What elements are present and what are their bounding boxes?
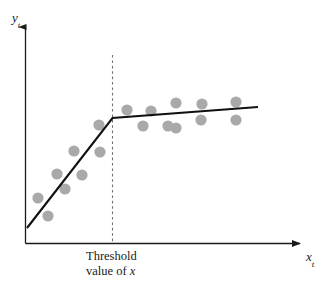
- threshold-caption: Threshold value of x: [86, 249, 196, 280]
- data-point: [170, 97, 181, 108]
- data-point: [230, 96, 241, 107]
- data-point: [76, 169, 87, 180]
- y-axis-label: yt: [12, 11, 20, 28]
- data-point: [42, 210, 53, 221]
- piecewise-regression-figure: yt xt Threshold value of x: [0, 0, 330, 284]
- x-axis-label-base: x: [306, 249, 312, 264]
- threshold-caption-line1: Threshold: [86, 249, 196, 264]
- x-axis-label: xt: [306, 250, 314, 267]
- data-point: [195, 114, 206, 125]
- x-axis-label-subscript: t: [312, 259, 315, 269]
- threshold-caption-line2-prefix: value of: [86, 264, 130, 278]
- data-point: [170, 122, 181, 133]
- threshold-caption-line2: value of x: [86, 264, 196, 279]
- data-point: [94, 146, 105, 157]
- data-point: [32, 192, 43, 203]
- y-axis-label-base: y: [12, 10, 18, 25]
- data-point: [68, 145, 79, 156]
- y-axis-label-subscript: t: [18, 20, 21, 30]
- data-point: [121, 104, 132, 115]
- data-point: [51, 168, 62, 179]
- plot-canvas: [0, 0, 330, 284]
- data-point: [137, 120, 148, 131]
- data-point: [230, 114, 241, 125]
- data-point: [196, 98, 207, 109]
- threshold-caption-variable: x: [130, 264, 136, 278]
